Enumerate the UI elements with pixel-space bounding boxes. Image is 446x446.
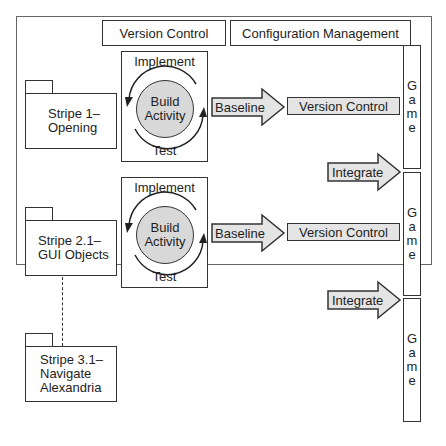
version-control-box-2: Version Control (287, 223, 400, 241)
build-cycle-2: Implement Build Activity Test (121, 177, 208, 288)
build-cycle-1: Implement Build Activity Test (121, 51, 208, 162)
stripe-1-line1: Stripe 1– (48, 107, 116, 121)
version-control-box-1: Version Control (287, 97, 400, 115)
baseline-label-1: Baseline (215, 98, 265, 116)
build-label: Build (151, 95, 180, 109)
baseline-label-2: Baseline (215, 224, 265, 242)
stripe-2-package: Stripe 2.1– GUI Objects (25, 220, 117, 276)
stripe-3-line1: Stripe 3.1– (40, 353, 116, 367)
game-bar-1: Ga me (403, 45, 421, 169)
game-bar-3: Ga me (403, 298, 421, 422)
integrate-label-2: Integrate (332, 291, 383, 309)
build-activity-circle: Build Activity (136, 80, 194, 138)
game-bar-2: Ga me (403, 172, 421, 296)
stripe-3-package: Stripe 3.1– Navigate Alexandria (25, 346, 117, 402)
stripe-3-tab (25, 333, 53, 347)
dependency-connector (62, 277, 63, 346)
integrate-label-1: Integrate (332, 163, 383, 181)
test-label: Test (122, 143, 207, 158)
stripe-2-tab (25, 207, 53, 221)
stripe-1-line2: Opening (48, 121, 116, 135)
stripe-2-line1: Stripe 2.1– (38, 234, 116, 248)
build-label: Build (151, 221, 180, 235)
activity-label: Activity (144, 109, 185, 123)
stripe-3-line3: Alexandria (40, 381, 116, 395)
version-control-header: Version Control (102, 20, 226, 46)
stripe-2-line2: GUI Objects (38, 248, 116, 262)
activity-label: Activity (144, 235, 185, 249)
stripe-3-line2: Navigate (40, 367, 116, 381)
build-activity-circle: Build Activity (136, 206, 194, 264)
stripe-1-package: Stripe 1– Opening (25, 93, 117, 149)
stripe-1-tab (25, 80, 53, 94)
test-label: Test (122, 269, 207, 284)
configuration-management-header: Configuration Management (230, 20, 411, 46)
